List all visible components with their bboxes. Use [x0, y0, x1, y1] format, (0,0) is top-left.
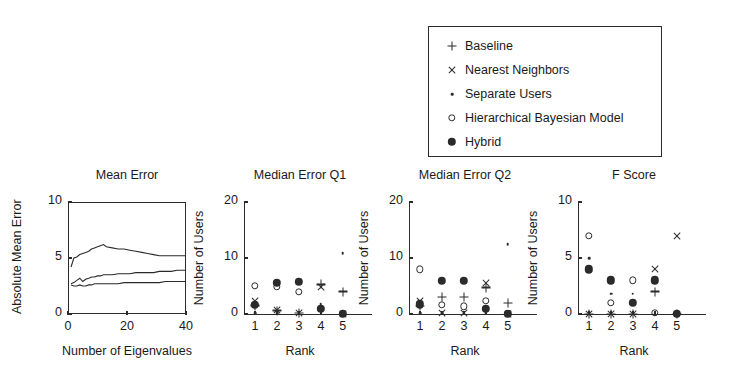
- filled-circle-icon: [604, 273, 618, 287]
- y-tick-mark: [578, 201, 582, 202]
- chart-title: F Score: [548, 168, 720, 182]
- filled-circle-icon: [582, 262, 596, 276]
- open-circle-icon: [604, 296, 618, 310]
- filled-circle-icon: [626, 296, 640, 310]
- filled-circle-icon: [648, 273, 662, 287]
- open-circle-icon: [626, 273, 640, 287]
- chart-panel: F Score051012345Number of UsersRank: [0, 0, 739, 383]
- y-axis-label: Number of Users: [526, 202, 540, 314]
- cross-icon: [670, 229, 684, 243]
- open-circle-icon: [648, 306, 662, 320]
- open-circle-icon: [582, 229, 596, 243]
- x-tick-label: 5: [663, 319, 691, 333]
- filled-circle-icon: [670, 307, 684, 321]
- cross-icon: [582, 307, 596, 321]
- figure-panel-grid: Baseline Nearest Neighbors Separate User…: [0, 0, 739, 383]
- x-axis-line: [578, 314, 706, 315]
- x-axis-label: Rank: [538, 344, 730, 358]
